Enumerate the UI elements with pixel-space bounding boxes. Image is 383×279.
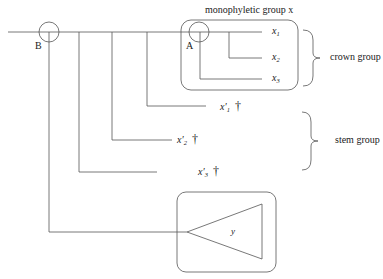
stem-branch-2 (112, 32, 172, 140)
stem-taxon-x3: x′3† (198, 166, 219, 180)
stem-group-brace (302, 112, 318, 170)
node-a-label: A (186, 41, 193, 51)
taxon-sub: 2 (184, 139, 187, 146)
stem-branch-3 (79, 32, 157, 172)
stem-group-label: stem group (335, 135, 380, 145)
crown-taxon-x1: x1 (272, 26, 280, 39)
crown-group-box (181, 20, 298, 90)
taxon-sub: 1 (227, 106, 230, 113)
crown-group-label: crown group (330, 52, 381, 62)
taxon-sub: 2 (276, 56, 279, 63)
taxon-sub: 3 (276, 77, 279, 84)
taxon-sub: 3 (205, 171, 208, 178)
outgroup-label: y (231, 226, 235, 236)
crown-taxon-x3: x3 (272, 73, 280, 86)
crown-group-brace (303, 30, 320, 86)
group-title: monophyletic group x (205, 5, 293, 15)
group-title-text: monophyletic group x (205, 4, 293, 15)
stem-taxon-x1: x′1† (220, 101, 241, 115)
taxon-base: x′ (177, 134, 184, 145)
outgroup-branch (49, 32, 187, 232)
extinct-dagger-icon: † (192, 132, 198, 146)
stem-taxon-x2: x′2† (177, 134, 198, 148)
stem-branch-1 (147, 32, 206, 106)
node-b-label: B (35, 41, 42, 51)
outgroup-clade-triangle (187, 204, 262, 259)
taxon-base: x′ (198, 166, 205, 177)
extinct-dagger-icon: † (213, 164, 219, 178)
taxon-sub: 1 (276, 30, 279, 37)
taxon-base: x′ (220, 101, 227, 112)
crown-branch-2 (229, 32, 262, 58)
extinct-dagger-icon: † (235, 99, 241, 113)
crown-taxon-x2: x2 (272, 52, 280, 65)
crown-branch-3 (200, 32, 262, 79)
cladogram-diagram: monophyletic group x B A x1 x2 x3 x′1† x… (0, 0, 383, 279)
